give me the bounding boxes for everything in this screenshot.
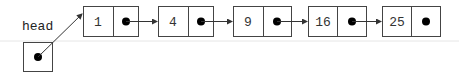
node-value: 1 bbox=[94, 15, 102, 30]
node-value: 9 bbox=[244, 15, 252, 30]
node-value: 25 bbox=[389, 15, 405, 30]
list-node: 1 bbox=[84, 7, 158, 37]
list-node: 25 bbox=[383, 7, 441, 37]
list-node: 16 bbox=[309, 7, 382, 37]
head-label: head bbox=[22, 19, 53, 34]
list-node: 4 bbox=[159, 7, 233, 37]
linked-list-diagram: head 1 4 9 16 25 bbox=[0, 0, 459, 73]
pointer-dot-icon bbox=[422, 18, 430, 26]
node-value: 16 bbox=[315, 15, 331, 30]
node-value: 4 bbox=[169, 15, 177, 30]
list-node: 9 bbox=[234, 7, 308, 37]
